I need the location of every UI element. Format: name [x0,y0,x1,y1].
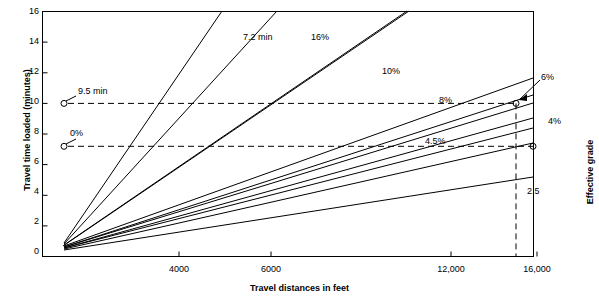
grade-curves [63,11,533,250]
chart-canvas [0,0,599,302]
chart-root: Travel time loaded (minutes) Effective g… [0,0,599,302]
marker-7-2-min [61,143,67,149]
plot-frame [43,12,534,257]
marker-9-5-min [61,100,67,106]
curve-4 [64,118,533,248]
curve-2p5 [64,143,533,249]
x-tick-marks [179,252,537,257]
curve-5 [64,95,533,247]
leader-4p5 [519,80,540,100]
curve-4p5 [64,103,533,247]
curve-8b [63,11,409,246]
curve-16 [64,11,222,243]
arrow-4p5 [519,94,527,101]
curve-10 [64,11,277,244]
leader-7-2 [66,139,76,144]
guide-lines [68,103,533,256]
y-tick-marks [43,12,48,257]
leader-9-5 [66,96,76,101]
leader-lines [66,80,540,144]
